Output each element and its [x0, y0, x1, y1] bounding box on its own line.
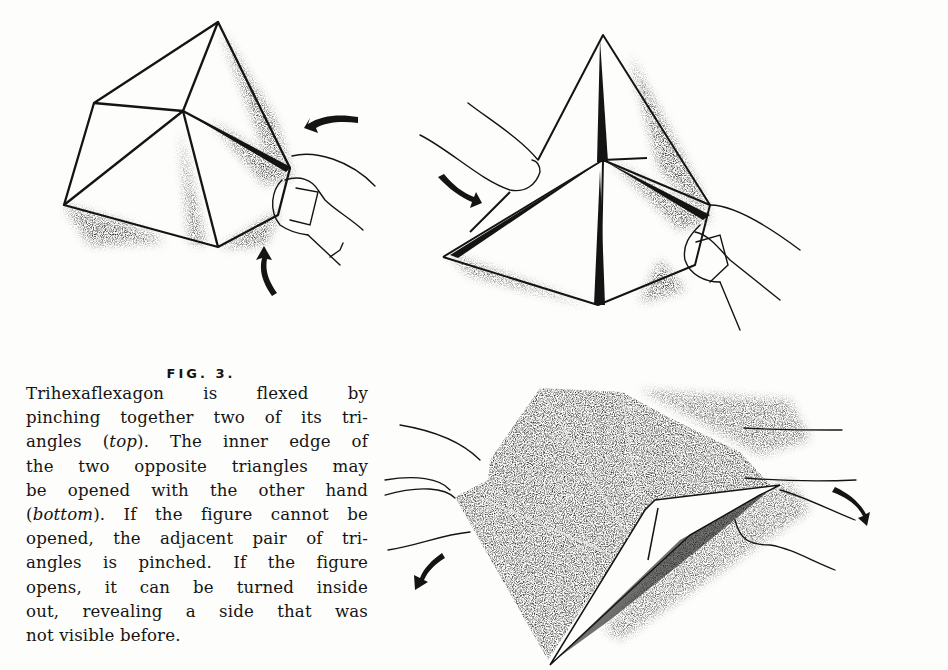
- figure-panel-bottom: [380, 370, 948, 670]
- caption-line: opens, it can be turned inside: [26, 576, 368, 600]
- caption-line: not visible before.: [26, 624, 368, 648]
- caption-line: out, revealing a side that was: [26, 600, 368, 624]
- caption-line: be opened with the other hand: [26, 479, 368, 503]
- caption-line: pinching together two of its tri-: [26, 406, 368, 430]
- figure-caption: FIG. 3. Trihexaflexagon is flexed by pin…: [26, 366, 368, 648]
- caption-line: angles is pinched. If the figure: [26, 551, 368, 575]
- caption-text: Trihexaflexagon is flexed by: [26, 384, 368, 403]
- caption-italic-bottom: bottom: [33, 505, 94, 524]
- curved-arrow-left-icon: [304, 115, 358, 133]
- flexagon-pinched-upright-illustration: [410, 20, 810, 340]
- caption-text: the two opposite triangles may: [26, 457, 368, 476]
- caption-text: out, revealing a side that was: [26, 602, 368, 621]
- caption-italic-top: top: [109, 432, 137, 451]
- figure-panel-top-left: [50, 10, 410, 310]
- caption-text: ). If the figure cannot be: [93, 505, 368, 524]
- figure-label: FIG. 3.: [34, 366, 368, 381]
- caption-text: opened, the adjacent pair of tri-: [26, 529, 368, 548]
- caption-line: opened, the adjacent pair of tri-: [26, 527, 368, 551]
- caption-text: ). The inner edge of: [137, 432, 368, 451]
- flexagon-pinched-illustration: [50, 10, 410, 310]
- curved-arrow-down-left-icon: [414, 553, 445, 590]
- caption-text: angles is pinched. If the figure: [26, 553, 368, 572]
- caption-line: Trihexaflexagon is flexed by: [26, 382, 368, 406]
- caption-line: (bottom). If the figure cannot be: [26, 503, 368, 527]
- curved-arrow-up-icon: [256, 246, 277, 296]
- caption-text: not visible before.: [26, 626, 181, 645]
- caption-text: (: [26, 505, 33, 524]
- caption-text: angles (: [26, 432, 109, 451]
- curved-arrow-down-right-icon: [832, 487, 870, 526]
- figure-panel-top-right: [410, 20, 810, 340]
- caption-text: be opened with the other hand: [26, 481, 368, 500]
- caption-line: angles (top). The inner edge of: [26, 430, 368, 454]
- caption-text: pinching together two of its tri-: [26, 408, 368, 427]
- curved-arrow-down-right-icon: [438, 174, 482, 208]
- flexagon-opened-illustration: [380, 370, 948, 670]
- caption-text: opens, it can be turned inside: [26, 578, 368, 597]
- caption-line: the two opposite triangles may: [26, 455, 368, 479]
